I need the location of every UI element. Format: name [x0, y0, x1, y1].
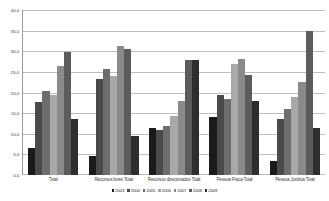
y-axis-tick-label: 35,0: [11, 28, 19, 33]
bar-2008[interactable]: [124, 49, 131, 175]
y-axis-tick-label: 0,0: [13, 173, 19, 178]
bar-2005[interactable]: [103, 69, 110, 175]
bar-2003[interactable]: [28, 148, 35, 175]
legend-swatch-icon: [158, 189, 161, 192]
y-axis-tick-label: 40,0: [11, 8, 19, 13]
x-axis-tick-label: Recursos direcionados Total: [144, 176, 204, 186]
legend-label: 2006: [162, 188, 171, 193]
bar-2003[interactable]: [149, 128, 156, 175]
legend-label: 2005: [146, 188, 155, 193]
bar-2003[interactable]: [209, 117, 216, 175]
bar-2003[interactable]: [89, 156, 96, 175]
y-axis-tick-label: 10,0: [11, 131, 19, 136]
legend-item-2005[interactable]: 2005: [143, 188, 155, 193]
legend-label: 2009: [208, 188, 217, 193]
bar-group: [23, 10, 83, 175]
bar-2004[interactable]: [96, 79, 103, 175]
bars-layer: [23, 10, 325, 175]
legend-swatch-icon: [112, 189, 115, 192]
bar-2005[interactable]: [224, 99, 231, 175]
bar-chart: 0,05,010,015,020,025,030,035,040,0 Total…: [0, 0, 329, 201]
legend-label: 2007: [177, 188, 186, 193]
legend-label: 2004: [131, 188, 140, 193]
bar-group-inner: [89, 10, 139, 175]
x-axis-tick-label: Pessoa Juridica Total: [265, 176, 325, 186]
bar-2009[interactable]: [131, 136, 138, 175]
x-axis: TotalRecursos livres TotalRecursos direc…: [23, 176, 325, 186]
legend-swatch-icon: [127, 189, 130, 192]
legend-swatch-icon: [189, 189, 192, 192]
bar-2006[interactable]: [110, 76, 117, 175]
legend-item-2006[interactable]: 2006: [158, 188, 170, 193]
bar-group-inner: [270, 10, 320, 175]
legend-item-2007[interactable]: 2007: [174, 188, 186, 193]
bar-2008[interactable]: [64, 52, 71, 175]
bar-2007[interactable]: [298, 82, 305, 175]
bar-group: [83, 10, 143, 175]
bar-2009[interactable]: [192, 60, 199, 176]
legend-label: 2008: [193, 188, 202, 193]
bar-2004[interactable]: [35, 102, 42, 175]
legend-swatch-icon: [174, 189, 177, 192]
legend-swatch-icon: [205, 189, 208, 192]
bar-2007[interactable]: [238, 59, 245, 175]
y-axis: 0,05,010,015,020,025,030,035,040,0: [0, 10, 21, 175]
y-axis-tick-label: 5,0: [13, 152, 19, 157]
bar-2008[interactable]: [306, 31, 313, 175]
bar-2004[interactable]: [277, 119, 284, 175]
bar-2006[interactable]: [170, 116, 177, 175]
bar-group-inner: [28, 10, 78, 175]
bar-group: [265, 10, 325, 175]
x-axis-tick-label: Pessoa Fisica Total: [204, 176, 264, 186]
bar-2009[interactable]: [71, 119, 78, 176]
y-axis-tick-label: 25,0: [11, 69, 19, 74]
x-axis-tick-label: Total: [23, 176, 83, 186]
x-axis-tick-label: Recursos livres Total: [83, 176, 143, 186]
bar-2004[interactable]: [156, 130, 163, 175]
bar-group-inner: [209, 10, 259, 175]
bar-2005[interactable]: [42, 91, 49, 175]
y-axis-tick-label: 20,0: [11, 90, 19, 95]
bar-2008[interactable]: [185, 60, 192, 176]
bar-2005[interactable]: [163, 126, 170, 176]
bar-2006[interactable]: [50, 95, 57, 175]
y-axis-tick-label: 15,0: [11, 111, 19, 116]
bar-2005[interactable]: [284, 109, 291, 175]
bar-2007[interactable]: [117, 46, 124, 175]
legend-item-2009[interactable]: 2009: [205, 188, 217, 193]
bar-2003[interactable]: [270, 161, 277, 175]
bar-2008[interactable]: [245, 75, 252, 175]
bar-group: [144, 10, 204, 175]
bar-2006[interactable]: [231, 64, 238, 175]
bar-2007[interactable]: [57, 66, 64, 175]
bar-2009[interactable]: [313, 128, 320, 175]
legend-label: 2003: [115, 188, 124, 193]
bar-2007[interactable]: [178, 101, 185, 175]
legend-item-2004[interactable]: 2004: [127, 188, 139, 193]
y-axis-tick-label: 30,0: [11, 49, 19, 54]
bar-group-inner: [149, 10, 199, 175]
legend-swatch-icon: [143, 189, 146, 192]
bar-2009[interactable]: [252, 101, 259, 175]
legend-item-2008[interactable]: 2008: [189, 188, 201, 193]
legend-item-2003[interactable]: 2003: [112, 188, 124, 193]
bar-2004[interactable]: [217, 95, 224, 175]
bar-group: [204, 10, 264, 175]
bar-2006[interactable]: [291, 97, 298, 175]
chart-legend: 2003200420052006200720082009: [0, 188, 329, 193]
